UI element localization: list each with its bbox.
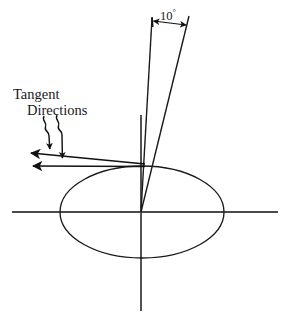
angle-label: 10° <box>160 8 176 23</box>
diagram-canvas <box>0 0 291 321</box>
tangent-arrow-lower <box>33 166 145 167</box>
leader-arrow-right <box>56 115 62 158</box>
angle-measure-left-tick <box>152 17 153 27</box>
cone-left-ray <box>141 18 152 212</box>
cone-right-ray <box>141 16 189 212</box>
angle-value: 10 <box>160 9 173 23</box>
degree-symbol: ° <box>173 7 176 17</box>
tangent-arrow-upper <box>31 153 145 164</box>
tangent-directions-label: Tangent Directions <box>13 86 87 118</box>
tangent-label-line2: Directions <box>13 102 87 118</box>
tangent-label-line1: Tangent <box>13 86 60 102</box>
leader-arrow-left <box>43 116 49 149</box>
tangent-directions-figure: Tangent Directions 10° <box>0 0 291 321</box>
